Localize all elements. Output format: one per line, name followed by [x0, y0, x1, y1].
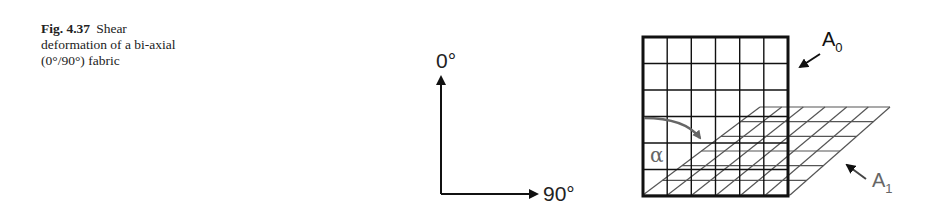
sheared-grid-label-text: A	[872, 169, 886, 191]
horizontal-axis-label: 90°	[543, 182, 575, 205]
original-grid-label-text: A	[822, 28, 836, 50]
original-grid-label: A0	[800, 28, 843, 67]
vertical-axis-label: 0°	[436, 49, 456, 72]
shear-angle-symbol: α	[650, 143, 664, 167]
fiber-direction-axes: 0° 90°	[436, 49, 575, 205]
sheared-grid-label-subscript: 1	[885, 181, 892, 196]
shear-diagram: 0° 90°	[0, 0, 935, 215]
sheared-grid	[643, 107, 890, 195]
svg-text:A0: A0	[822, 28, 843, 55]
original-grid-label-subscript: 0	[835, 40, 842, 55]
sheared-grid-label: A1	[847, 165, 893, 196]
original-grid	[643, 37, 788, 196]
sheared-grid-pointer-arrow	[847, 165, 866, 179]
svg-text:A1: A1	[872, 169, 893, 196]
original-grid-pointer-arrow	[800, 54, 820, 67]
